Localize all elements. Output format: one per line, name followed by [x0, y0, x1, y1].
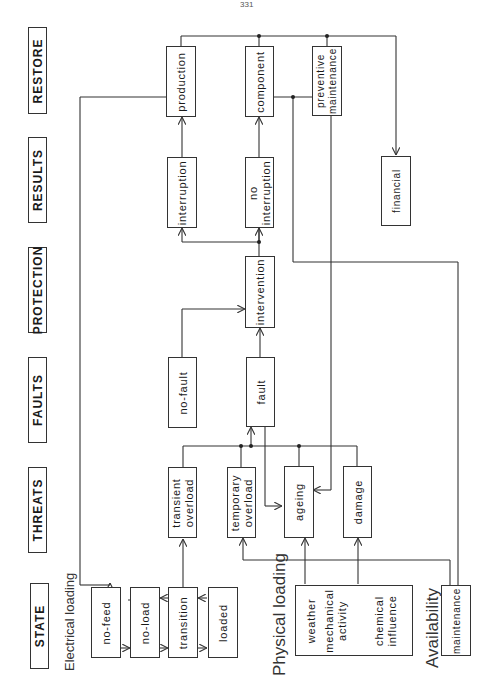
transition-label: transition	[177, 596, 190, 649]
component-label: component	[253, 51, 266, 113]
node-production: production	[166, 46, 196, 117]
node-no-fault: no-fault	[168, 357, 197, 428]
node-no-interruption: no interruption	[245, 157, 274, 228]
node-intervention: intervention	[245, 256, 275, 328]
financial-label: financial	[390, 169, 403, 213]
no-interruption-label: no interruption	[247, 160, 273, 225]
node-loaded: loaded	[208, 587, 238, 658]
preventive-maintenance-label: preventive maintenance	[315, 48, 339, 114]
node-component: component	[245, 46, 274, 117]
node-financial: financial	[381, 156, 411, 226]
node-interruption: interruption	[167, 157, 197, 228]
weather-label: weather	[305, 598, 318, 643]
no-load-label: no-load	[139, 601, 152, 643]
maintenance-label: maintenance	[450, 587, 463, 653]
chemical-influence-label: chemical influence	[373, 595, 399, 646]
node-fault: fault	[246, 357, 275, 427]
node-maintenance: maintenance	[441, 585, 471, 656]
node-preventive-maintenance: preventive maintenance	[312, 46, 342, 116]
node-no-load: no-load	[130, 587, 160, 658]
no-feed-label: no-feed	[100, 601, 113, 644]
node-transition: transition	[168, 587, 198, 658]
interruption-label: interruption	[176, 160, 189, 225]
fault-label: fault	[254, 380, 267, 405]
node-damage: damage	[343, 466, 372, 538]
temporary-overload-label: temporary overload	[229, 474, 255, 531]
no-fault-label: no-fault	[176, 371, 189, 414]
damage-label: damage	[351, 480, 364, 525]
intervention-label: intervention	[254, 259, 267, 325]
node-transient-overload: transient overload	[168, 467, 197, 538]
node-physical-loading: weather mechanical activity chemical inf…	[295, 585, 413, 656]
node-ageing: ageing	[284, 466, 314, 538]
transient-overload-label: transient overload	[170, 478, 196, 527]
mechanical-activity-label: mechanical activity	[323, 589, 349, 653]
production-label: production	[175, 52, 188, 111]
loaded-label: loaded	[217, 604, 230, 642]
ageing-label: ageing	[293, 483, 306, 521]
node-no-feed: no-feed	[91, 587, 121, 658]
node-temporary-overload: temporary overload	[227, 467, 256, 538]
